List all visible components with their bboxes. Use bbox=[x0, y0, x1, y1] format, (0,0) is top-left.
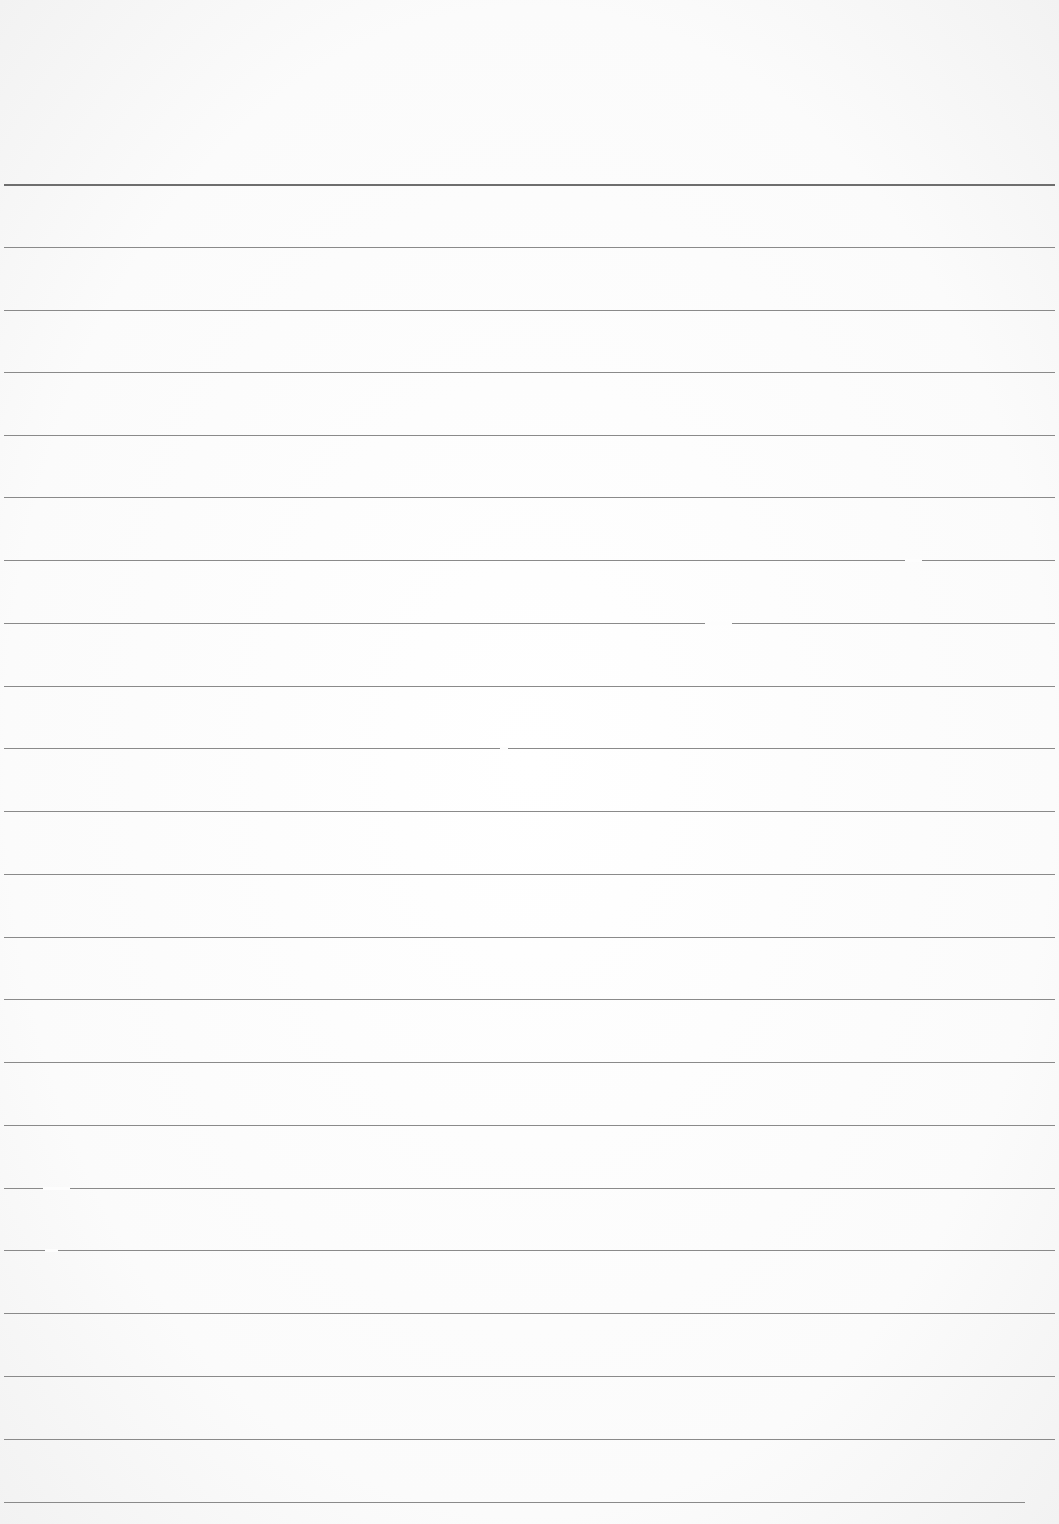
ruled-line bbox=[4, 748, 1055, 749]
ruled-line bbox=[4, 811, 1055, 812]
ruled-line bbox=[4, 999, 1055, 1000]
line-gap bbox=[500, 747, 508, 750]
ruled-line bbox=[4, 310, 1055, 311]
ruled-line bbox=[4, 623, 1055, 624]
line-gap bbox=[905, 559, 922, 562]
ruled-line bbox=[4, 560, 1055, 561]
ruled-line bbox=[4, 686, 1055, 687]
ruled-line bbox=[4, 1188, 1055, 1189]
ruled-line bbox=[4, 497, 1055, 498]
ruled-line bbox=[4, 1250, 1055, 1251]
lined-paper-sheet bbox=[0, 0, 1059, 1524]
ruled-line bbox=[4, 435, 1055, 436]
line-gap bbox=[43, 1187, 70, 1190]
ruled-line bbox=[4, 1313, 1055, 1314]
ruled-line bbox=[4, 1376, 1055, 1377]
line-gap bbox=[45, 1249, 58, 1252]
ruled-line bbox=[4, 1125, 1055, 1126]
ruled-line bbox=[4, 937, 1055, 938]
ruled-line bbox=[4, 372, 1055, 373]
ruled-line bbox=[4, 874, 1055, 875]
ruled-line bbox=[4, 247, 1055, 248]
ruled-line bbox=[4, 1062, 1055, 1063]
line-gap bbox=[705, 622, 732, 625]
ruled-line bbox=[4, 1439, 1055, 1440]
header-rule-line bbox=[4, 184, 1055, 186]
ruled-line bbox=[4, 1502, 1025, 1503]
